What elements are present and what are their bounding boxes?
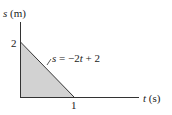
- x-tick-label: 1: [71, 99, 77, 111]
- annotation-leader: [47, 59, 51, 65]
- x-axis-label: t (s): [143, 92, 161, 105]
- y-axis-label: s (m): [3, 7, 26, 20]
- y-tick-label: 2: [11, 37, 17, 49]
- chart: s (m) 2 1 t (s) s = −2t + 2: [0, 0, 172, 115]
- equation-annotation: s = −2t + 2: [52, 52, 100, 64]
